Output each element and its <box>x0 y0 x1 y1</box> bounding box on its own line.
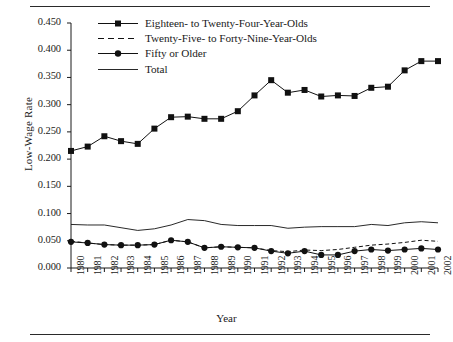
data-point-marker <box>218 244 224 250</box>
data-point-marker <box>201 245 207 251</box>
data-point-marker <box>268 248 274 254</box>
data-point-marker <box>235 244 241 250</box>
data-point-marker <box>85 144 91 150</box>
y-axis-tick-label: 0.150 <box>17 179 61 190</box>
x-axis-tick-label: 1997 <box>359 256 370 275</box>
data-point-marker <box>68 239 74 245</box>
y-axis-tick-label: 0.250 <box>17 125 61 136</box>
x-axis-tick-label: 1981 <box>92 256 103 275</box>
data-point-marker <box>201 116 207 122</box>
x-axis-tick-label: 1998 <box>376 256 387 275</box>
line-circle-key <box>96 46 140 61</box>
legend-item: Eighteen- to Twenty-Four-Year-Olds <box>96 16 317 31</box>
x-axis-tick-label: 1989 <box>226 256 237 275</box>
data-point-marker <box>435 246 441 252</box>
data-point-marker <box>101 133 107 139</box>
data-point-marker <box>135 141 141 147</box>
data-point-marker <box>185 114 191 120</box>
data-point-marker <box>385 247 391 253</box>
x-axis-tick-label: 1999 <box>392 256 403 275</box>
data-point-marker <box>118 138 124 144</box>
data-point-marker <box>302 87 308 93</box>
chart-legend: Eighteen- to Twenty-Four-Year-OldsTwenty… <box>96 16 317 77</box>
y-axis-tick-label: 0.100 <box>17 207 61 218</box>
x-axis-tick-label: 1986 <box>175 256 186 275</box>
data-point-marker <box>351 248 357 254</box>
data-point-marker <box>168 237 174 243</box>
y-axis-tick-label: 0.350 <box>17 70 61 81</box>
data-point-marker <box>151 126 157 132</box>
legend-item-label: Eighteen- to Twenty-Four-Year-Olds <box>145 16 308 31</box>
y-axis-tick-label: 0.300 <box>17 98 61 109</box>
x-axis-tick-label: 1985 <box>159 256 170 275</box>
data-point-marker <box>268 77 274 83</box>
data-point-marker <box>151 241 157 247</box>
data-point-marker <box>385 84 391 90</box>
data-point-marker <box>235 108 241 114</box>
y-axis-tick-label: 0.050 <box>17 234 61 245</box>
data-point-marker <box>101 241 107 247</box>
x-axis-tick-label: 1992 <box>276 256 287 275</box>
figure: Low-Wage Rate Year 0.0000.0500.1000.1500… <box>0 0 453 342</box>
data-point-marker <box>418 58 424 64</box>
data-point-marker <box>368 246 374 252</box>
data-point-marker <box>335 92 341 98</box>
data-point-marker <box>135 242 141 248</box>
y-axis-tick-label: 0.200 <box>17 152 61 163</box>
legend-item: Fifty or Older <box>96 46 317 61</box>
x-axis-tick-label: 1991 <box>259 256 270 275</box>
x-axis-tick-label: 1983 <box>125 256 136 275</box>
x-axis-tick-label: 1988 <box>209 256 220 275</box>
y-axis-tick-label: 0.400 <box>17 43 61 54</box>
x-axis-tick-label: 1980 <box>75 256 86 275</box>
y-axis-tick-label: 0.000 <box>17 261 61 272</box>
data-point-marker <box>168 114 174 120</box>
legend-item: Twenty-Five- to Forty-Nine-Year-Olds <box>96 31 317 46</box>
data-point-marker <box>402 246 408 252</box>
x-axis-tick-label: 1993 <box>292 256 303 275</box>
data-point-marker <box>218 116 224 122</box>
x-axis-tick-label: 1994 <box>309 256 320 275</box>
x-axis-tick-label: 2001 <box>426 256 437 275</box>
x-axis-tick-label: 2000 <box>409 256 420 275</box>
data-point-marker <box>352 93 358 99</box>
legend-item-label: Fifty or Older <box>145 46 206 61</box>
data-point-marker <box>318 94 324 100</box>
data-point-marker <box>402 67 408 73</box>
data-point-marker <box>118 242 124 248</box>
data-point-marker <box>251 245 257 251</box>
legend-item: Total <box>96 62 317 77</box>
y-axis-tick-label: 0.450 <box>17 16 61 27</box>
x-axis-title: Year <box>0 312 453 324</box>
data-point-marker <box>435 58 441 64</box>
data-point-marker <box>301 248 307 254</box>
x-axis-tick-label: 1984 <box>142 256 153 275</box>
data-point-marker <box>85 240 91 246</box>
x-axis-tick-label: 2002 <box>442 256 453 275</box>
x-axis-tick-label: 1982 <box>109 256 120 275</box>
dashed-line-key <box>96 31 140 46</box>
legend-item-label: Total <box>145 62 168 77</box>
data-point-marker <box>185 239 191 245</box>
data-point-marker <box>68 148 74 154</box>
data-point-marker <box>368 85 374 91</box>
x-axis-tick-label: 1995 <box>326 256 337 275</box>
line-square-key <box>96 16 140 31</box>
x-axis-tick-label: 1996 <box>342 256 353 275</box>
legend-item-label: Twenty-Five- to Forty-Nine-Year-Olds <box>145 31 317 46</box>
x-axis-tick-label: 1987 <box>192 256 203 275</box>
x-axis-tick-label: 1990 <box>242 256 253 275</box>
data-point-marker <box>252 92 258 98</box>
line-plain-key <box>96 62 140 77</box>
data-point-marker <box>285 90 291 96</box>
series-line <box>71 220 438 231</box>
data-point-marker <box>418 245 424 251</box>
